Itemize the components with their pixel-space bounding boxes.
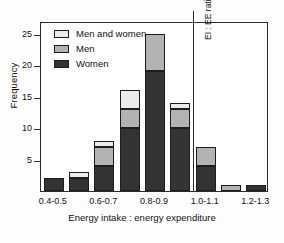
bar-segment-women xyxy=(170,128,190,191)
bar-0.7-0.8 xyxy=(120,90,140,191)
bar-segment-both xyxy=(120,90,140,109)
bar-1.1-1.2 xyxy=(221,185,241,191)
y-tick-label: 15 xyxy=(10,93,32,102)
legend-swatch-men xyxy=(54,45,69,53)
bar-segment-women xyxy=(69,178,89,191)
bar-0.6-0.7 xyxy=(94,141,114,191)
x-tick-label: 0.4-0.5 xyxy=(28,196,78,206)
bar-0.5-0.6 xyxy=(69,172,89,191)
y-tick-label: 5 xyxy=(10,156,32,165)
bar-segment-both xyxy=(69,172,89,178)
bar-0.9-1.0 xyxy=(170,103,190,191)
legend-label-women: Women xyxy=(76,59,109,68)
x-axis-title: Energy intake : energy expenditure xyxy=(0,212,284,223)
legend-item-men-and-women: Men and women xyxy=(54,28,146,39)
x-tick-label: 0.6-0.7 xyxy=(78,196,128,206)
bar-segment-men xyxy=(196,147,216,166)
bar-segment-women xyxy=(246,185,266,191)
bar-segment-women xyxy=(94,166,114,191)
bar-segment-men xyxy=(221,185,241,191)
bar-segment-men xyxy=(170,109,190,128)
bar-0.8-0.9 xyxy=(145,34,165,191)
bar-segment-women xyxy=(196,166,216,191)
y-tick-label: 20 xyxy=(10,61,32,70)
y-tick-label: 25 xyxy=(10,30,32,39)
legend-item-men: Men xyxy=(54,43,146,54)
x-tick-label: 1.0-1.1 xyxy=(180,196,230,206)
bar-segment-both xyxy=(170,103,190,109)
bar-0.4-0.5 xyxy=(44,178,64,191)
bar-segment-men xyxy=(120,109,140,128)
legend-swatch-men-and-women xyxy=(54,30,69,38)
bar-1.2-1.3 xyxy=(246,185,266,191)
legend-label-men: Men xyxy=(76,44,94,53)
bar-segment-men xyxy=(145,34,165,72)
reference-line xyxy=(193,11,194,192)
legend-swatch-women xyxy=(54,60,69,68)
bar-1.0-1.1 xyxy=(196,147,216,191)
reference-line-label: EI : EE ratio = 1.0 xyxy=(203,0,213,40)
legend-label-men-and-women: Men and women xyxy=(76,29,146,38)
bar-segment-women xyxy=(120,128,140,191)
x-tick-label: 1.2-1.3 xyxy=(230,196,280,206)
figure: Frequency 510152025 EI : EE ratio = 1.0 … xyxy=(0,0,284,243)
y-axis-title: Frequency xyxy=(8,46,19,126)
bar-segment-women xyxy=(145,71,165,191)
bar-segment-both xyxy=(94,141,114,147)
bar-segment-men xyxy=(94,147,114,166)
bar-segment-women xyxy=(44,178,64,191)
legend: Men and women Men Women xyxy=(54,28,146,73)
y-tick-label: 10 xyxy=(10,124,32,133)
x-tick-label: 0.8-0.9 xyxy=(129,196,179,206)
legend-item-women: Women xyxy=(54,58,146,69)
